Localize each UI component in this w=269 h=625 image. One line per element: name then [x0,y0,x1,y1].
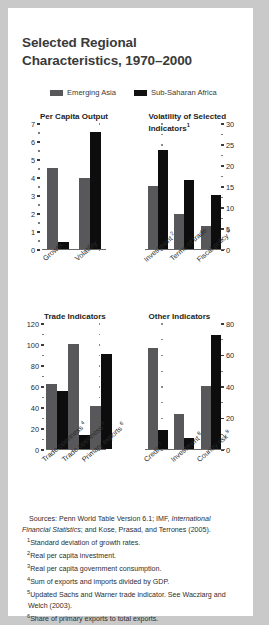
chart-legend: Emerging Asia Sub-Saharan Africa [50,88,240,97]
chart-panel-row-top: Per Capita Output 01234567 GrowthVolatil… [8,110,253,310]
plot-area-panel-1 [42,124,106,250]
panel-title-other-indicators: Other Indicators [149,312,211,322]
bar-emerging-asia [148,186,158,248]
bar-emerging-asia [47,168,58,249]
bar-groups-panel-1 [42,124,106,249]
bar-groups-panel-4 [145,324,225,449]
legend-label-sub-saharan-africa: Sub-Saharan Africa [151,88,217,97]
x-axis-labels-panel-3: Trade openness 4Trade openness 5Primary … [8,452,131,510]
x-axis-labels-panel-2: Investment 2Terms of tradeFiscal policy … [131,252,254,310]
legend-label-emerging-asia: Emerging Asia [67,88,116,97]
figure-notes: Sources: Penn World Table Version 6.1; I… [22,514,240,625]
legend-item-emerging-asia: Emerging Asia [50,88,116,97]
panel-title-per-capita-output: Per Capita Output [40,112,108,122]
footnote: 3Real per capita government consumption. [22,562,240,575]
bar-group [79,124,101,249]
bar-groups-panel-2 [145,124,225,249]
footnote: 6Share of primary exports to total expor… [22,612,240,625]
footnote: 1Standard deviation of growth rates. [22,536,240,549]
legend-item-sub-saharan-africa: Sub-Saharan Africa [134,88,217,97]
legend-swatch-emerging-asia [50,90,63,96]
bar-group [201,324,221,449]
footnote: 5Updated Sachs and Warner trade indicato… [22,588,240,612]
bar-sub-saharan-africa [211,335,221,448]
plot-area-panel-2 [145,124,225,250]
footnote-list: 1Standard deviation of growth rates.2Rea… [22,536,240,625]
chart-panel-row-bottom: Trade Indicators 020406080100120 Trade o… [8,310,253,510]
bar-group [46,324,68,449]
bar-group [148,124,168,249]
bar-emerging-asia [79,178,90,249]
bar-emerging-asia [148,348,158,449]
footnote: 4Sum of exports and imports divided by G… [22,575,240,588]
bar-group [174,124,194,249]
figure-card: Selected Regional Characteristics, 1970–… [8,8,253,616]
y-axis-ticks-panel-1: 01234567 [10,124,40,250]
footnote: 2Real per capita investment. [22,549,240,562]
bar-sub-saharan-africa [90,132,101,249]
bar-emerging-asia [46,384,57,449]
chart-panel-grid: Per Capita Output 01234567 GrowthVolatil… [8,110,253,510]
panel-title-trade-indicators: Trade Indicators [44,312,106,322]
chart-panel-trade-indicators: Trade Indicators 020406080100120 Trade o… [8,310,131,510]
chart-panel-volatility-of-selected-indicators: Volatility of Selected Indicators1 05101… [131,110,254,310]
x-axis-labels-panel-4: Credit 7Investment 8Country risk 9 [131,452,254,510]
chart-panel-per-capita-output: Per Capita Output 01234567 GrowthVolatil… [8,110,131,310]
bar-group [47,124,69,249]
page-title: Selected Regional Characteristics, 1970–… [22,34,237,70]
chart-panel-other-indicators: Other Indicators 020406080 Credit 7Inves… [131,310,254,510]
bar-group [174,324,194,449]
legend-swatch-sub-saharan-africa [134,90,147,96]
sources-line: Sources: Penn World Table Version 6.1; I… [22,514,240,536]
x-axis-labels-panel-1: GrowthVolatility [8,252,131,310]
y-axis-ticks-panel-3: 020406080100120 [8,324,44,450]
bar-group [148,324,168,449]
plot-area-panel-4 [145,324,225,450]
